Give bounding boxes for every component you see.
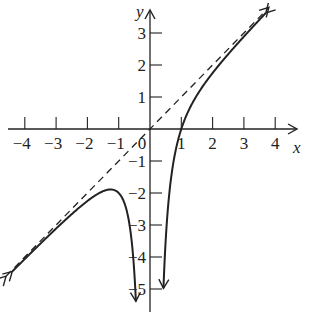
y-tick-label: 2 [138,56,147,75]
y-tick-label: −4 [128,248,147,267]
x-tick-label: −2 [75,134,93,153]
y-axis-label: y [134,2,144,21]
x-tick-label: −3 [44,134,62,153]
x-tick-label: −4 [13,134,32,153]
y-tick-label: 1 [138,88,147,107]
function-graph: xy−4−3−2−101234321−1−2−3−4−5 [0,0,309,315]
x-axis-label: x [292,138,301,157]
x-tick-label: 2 [208,134,217,153]
y-tick-label: −2 [128,184,146,203]
y-tick-label: −5 [128,280,146,299]
x-tick-label: 4 [271,134,280,153]
y-tick-label: −1 [128,152,146,171]
x-tick-label: −1 [107,134,125,153]
x-tick-label: 3 [240,134,249,153]
tick-labels: xy−4−3−2−101234321−1−2−3−4−5 [13,2,301,299]
y-tick-label: 3 [138,24,147,43]
